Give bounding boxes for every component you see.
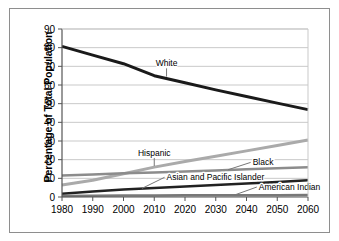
series-label: Asian and Pacific Islander xyxy=(167,172,265,182)
y-axis-ticks: 0102030405060708090 xyxy=(44,24,62,203)
line-chart: 0102030405060708090 19801990200020102020… xyxy=(10,9,329,232)
y-tick-label: 70 xyxy=(44,61,56,72)
x-tick-label: 2020 xyxy=(174,204,197,215)
y-tick-label: 90 xyxy=(44,24,56,35)
y-tick-label: 60 xyxy=(44,80,56,91)
x-tick-label: 2030 xyxy=(205,204,228,215)
series-label: White xyxy=(156,58,178,68)
x-tick-label: 1990 xyxy=(82,204,105,215)
x-tick-label: 2010 xyxy=(143,204,166,215)
y-tick-label: 80 xyxy=(44,42,56,53)
series-line xyxy=(62,195,308,196)
series-label: Hispanic xyxy=(138,148,171,158)
figure-container: Percentage of Total Population 010203040… xyxy=(0,0,339,241)
y-tick-label: 40 xyxy=(44,117,56,128)
y-tick-label: 20 xyxy=(44,154,56,165)
x-tick-label: 1980 xyxy=(51,204,74,215)
chart-frame: Percentage of Total Population 010203040… xyxy=(9,8,330,233)
series-label: American Indian xyxy=(259,182,321,192)
x-tick-label: 2060 xyxy=(297,204,320,215)
x-tick-label: 2050 xyxy=(266,204,289,215)
series-label: Black xyxy=(253,157,275,167)
series-line xyxy=(62,46,308,109)
y-tick-label: 10 xyxy=(44,173,56,184)
x-tick-label: 2000 xyxy=(112,204,135,215)
y-tick-label: 30 xyxy=(44,136,56,147)
x-axis-ticks: 198019902000201020202030204020502060 xyxy=(51,197,320,215)
y-tick-label: 50 xyxy=(44,98,56,109)
x-tick-label: 2040 xyxy=(235,204,258,215)
y-tick-label: 0 xyxy=(49,192,55,203)
